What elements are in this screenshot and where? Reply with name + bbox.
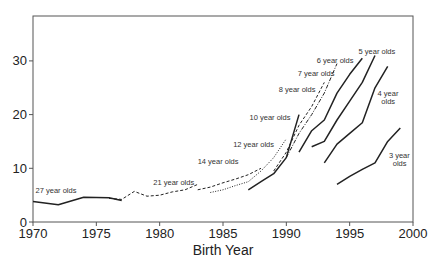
y-tick-label: 30 [13, 53, 27, 68]
series-label: 14 year olds [198, 157, 239, 166]
y-tick-label: 20 [13, 107, 27, 122]
y-axis: 0102030 [13, 53, 33, 229]
x-tick-label: 1975 [82, 226, 111, 241]
x-tick-label: 1990 [272, 226, 301, 241]
x-tick-label: 1985 [209, 226, 238, 241]
x-tick-label: 1995 [335, 226, 364, 241]
series-label: 21 year olds [153, 178, 194, 187]
series-label: 5 year olds [359, 47, 396, 56]
series-label: 12 year olds [233, 140, 274, 149]
series-label: 10 year olds [250, 113, 291, 122]
series-label: 7 year olds [298, 69, 335, 78]
x-tick-label: 2000 [399, 226, 428, 241]
x-tick-label: 1970 [19, 226, 48, 241]
series-line [198, 168, 261, 190]
x-axis: 1970197519801985199019952000 [19, 222, 428, 241]
series-label: 27 year olds [36, 186, 77, 195]
line-chart: 0102030 1970197519801985199019952000 27 … [0, 0, 439, 265]
series-label: olds [393, 159, 407, 168]
x-axis-title: Birth Year [193, 242, 254, 258]
plot-frame [33, 16, 413, 222]
series-label: 6 year olds [317, 56, 354, 65]
series-line [33, 197, 122, 205]
series-label: olds [381, 97, 395, 106]
series-label: 8 year olds [279, 85, 316, 94]
series-lines [33, 56, 400, 205]
x-tick-label: 1980 [145, 226, 174, 241]
series-line [324, 66, 387, 163]
series-line [248, 115, 299, 190]
y-tick-label: 10 [13, 161, 27, 176]
